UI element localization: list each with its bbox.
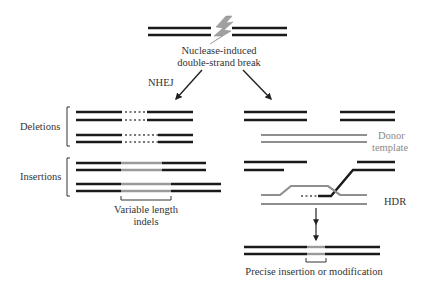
repaired-dna (244, 247, 380, 254)
indels-bracket (121, 196, 171, 200)
donor-label-line2: template (372, 142, 408, 154)
deletion-row-1 (76, 112, 193, 120)
hdr-label: HDR (384, 196, 406, 208)
break-label-line2: double-strand break (177, 57, 261, 69)
insertion-row-1 (76, 163, 206, 170)
precise-bracket (306, 258, 326, 262)
precise-label: Precise insertion or modification (245, 266, 382, 278)
insertions-label: Insertions (20, 171, 61, 183)
indels-label-line2: indels (133, 216, 158, 228)
lightning-bolt-icon (210, 16, 233, 44)
broken-ends (244, 112, 395, 120)
nhej-label: NHEJ (148, 77, 174, 89)
deletion-row-2 (76, 135, 193, 142)
insertion-brackets (67, 158, 70, 196)
deletions-label: Deletions (20, 121, 60, 133)
indels-label-line1: Variable length (114, 204, 178, 216)
insertion-row-2 (76, 184, 221, 191)
dsb-repair-diagram (0, 0, 430, 290)
hdr-intermediate (244, 162, 395, 204)
arrow-down-right-icon (243, 70, 271, 99)
donor-template (261, 135, 367, 142)
deletion-brackets (67, 107, 70, 146)
arrow-down-left-icon (176, 70, 202, 99)
donor-label-line1: Donor (378, 130, 405, 142)
break-label-line1: Nuclease-induced (181, 45, 256, 57)
